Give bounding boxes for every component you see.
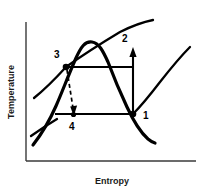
state-label-2: 2 [122, 33, 128, 44]
state-label-1: 1 [143, 110, 149, 121]
state-point-3 [63, 64, 70, 71]
state-label-3: 3 [54, 49, 60, 60]
chart-background [0, 0, 207, 195]
state-label-4: 4 [69, 121, 75, 132]
state-point-4 [71, 112, 76, 117]
temperature-entropy-chart: 1 2 3 4 Temperature Entropy [0, 0, 207, 195]
state-point-1 [130, 111, 137, 118]
y-axis-label: Temperature [6, 65, 16, 119]
ts-diagram-figure: 1 2 3 4 Temperature Entropy [0, 0, 207, 195]
x-axis-label: Entropy [95, 176, 129, 186]
